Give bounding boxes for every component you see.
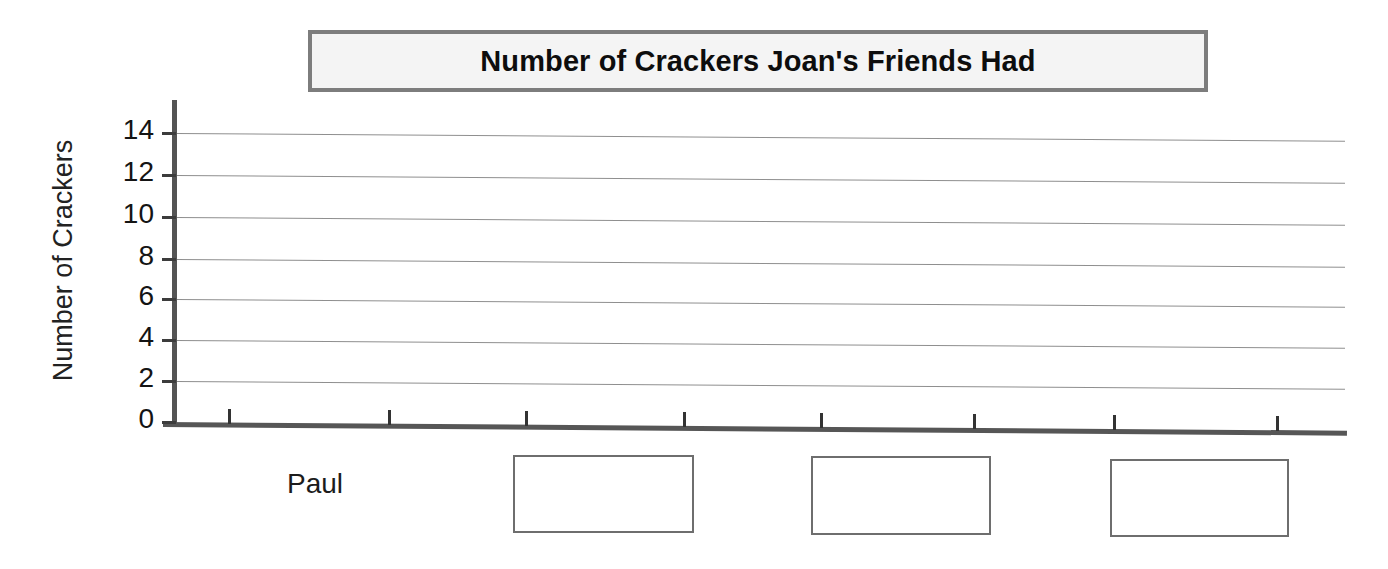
- y-axis-line: [172, 100, 177, 425]
- y-axis-title: Number of Crackers: [48, 106, 79, 416]
- y-tick-mark-14: [162, 132, 176, 135]
- y-tick-mark-10: [162, 216, 176, 219]
- y-tick-mark-4: [162, 339, 176, 342]
- y-tick-label-6: 6: [96, 282, 154, 310]
- plot-area: [176, 100, 1346, 425]
- y-tick-mark-2: [162, 380, 176, 383]
- y-tick-label-10: 10: [96, 200, 154, 228]
- x-tick-mark-6: [973, 414, 976, 429]
- gridline-10: [176, 217, 1345, 226]
- x-tick-mark-7: [1113, 415, 1116, 430]
- x-tick-mark-8: [1276, 416, 1279, 431]
- y-tick-label-14: 14: [96, 116, 154, 144]
- gridline-6: [176, 299, 1345, 308]
- x-tick-mark-4: [683, 412, 686, 427]
- x-tick-mark-3: [525, 411, 528, 426]
- x-tick-mark-5: [820, 413, 823, 428]
- gridline-12: [176, 175, 1345, 184]
- y-tick-label-4: 4: [96, 323, 154, 351]
- gridline-14: [176, 133, 1345, 142]
- y-tick-label-0: 0: [96, 405, 154, 433]
- x-category-label-paul: Paul: [255, 468, 375, 500]
- answer-box-1[interactable]: [513, 455, 694, 533]
- x-tick-mark-1: [228, 409, 231, 424]
- answer-box-2[interactable]: [811, 456, 991, 535]
- y-tick-mark-0: [162, 421, 176, 424]
- y-tick-mark-12: [162, 174, 176, 177]
- page-title: Number of Crackers Joan's Friends Had: [480, 45, 1035, 78]
- chart-title-box: Number of Crackers Joan's Friends Had: [308, 30, 1208, 92]
- y-tick-mark-6: [162, 298, 176, 301]
- worksheet-bar-graph: Number of Crackers Joan's Friends Had Nu…: [0, 0, 1388, 569]
- y-tick-label-2: 2: [96, 364, 154, 392]
- answer-box-3[interactable]: [1110, 459, 1289, 537]
- y-tick-label-8: 8: [96, 242, 154, 270]
- gridline-2: [176, 381, 1345, 390]
- gridline-8: [176, 259, 1345, 268]
- y-tick-label-12: 12: [96, 158, 154, 186]
- gridline-4: [176, 340, 1345, 349]
- y-tick-mark-8: [162, 258, 176, 261]
- x-tick-mark-2: [388, 410, 391, 425]
